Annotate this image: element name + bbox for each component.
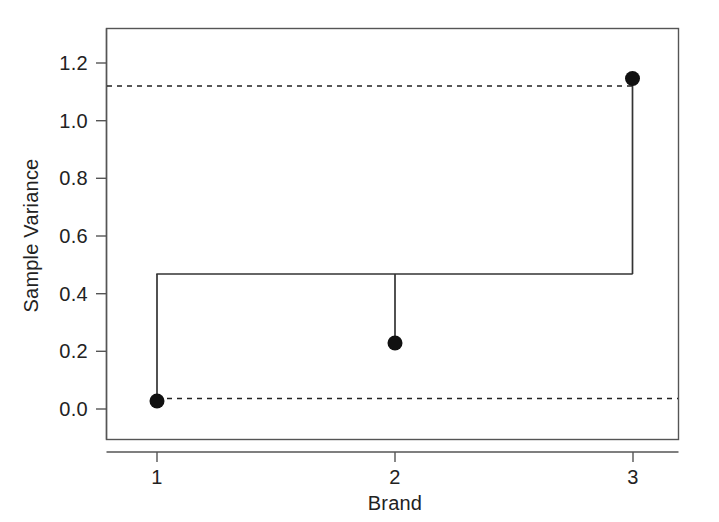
x-tick-label-1: 1 xyxy=(151,466,162,489)
y-tick-label-0.0: 0.0 xyxy=(24,398,88,421)
plot-canvas xyxy=(0,0,719,522)
y-axis-title: Sample Variance xyxy=(20,156,43,316)
plot-panel-border xyxy=(107,29,679,440)
y-tick-label-0.2: 0.2 xyxy=(24,340,88,363)
chart-figure: 1.2 1.0 0.8 0.6 0.4 0.2 0.0 1 2 3 Sample… xyxy=(0,0,719,522)
connector-polyline-group xyxy=(156,79,632,401)
data-point-markers xyxy=(150,71,641,409)
x-axis-ticks xyxy=(157,452,633,462)
data-point-brand-2 xyxy=(388,336,403,351)
y-axis-ticks xyxy=(96,63,107,409)
x-axis-title: Brand xyxy=(368,492,422,515)
x-tick-label-2: 2 xyxy=(389,466,400,489)
data-point-brand-3 xyxy=(625,71,640,86)
y-tick-label-1.0: 1.0 xyxy=(24,109,88,132)
y-tick-label-1.2: 1.2 xyxy=(24,52,88,75)
x-tick-label-3: 3 xyxy=(627,466,638,489)
data-point-brand-1 xyxy=(150,394,165,409)
